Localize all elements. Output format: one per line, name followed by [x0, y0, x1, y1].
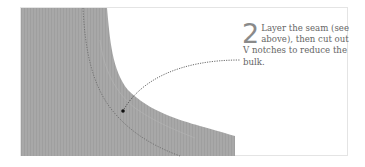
step-caption: 2Layer the seam (see above), then cut ou… — [243, 23, 353, 68]
fabric-piece — [21, 8, 235, 156]
step-number: 2 — [242, 23, 259, 45]
pointer-dot — [121, 109, 125, 113]
